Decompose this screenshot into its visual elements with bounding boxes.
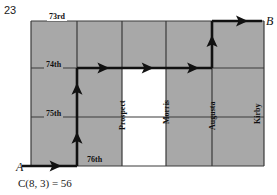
figure-caption: C(8, 3) = 56 [18,177,72,189]
street-grid-diagram [0,0,277,195]
street-label-73rd: 73rd [47,12,67,21]
node-label-end: B [266,14,273,29]
street-label-75th: 75th [44,109,63,118]
node-label-start: A [16,160,23,175]
street-label-augusta: Augusta [208,102,217,130]
combinatorics-grid-figure: 23 73rd74th75th76th ProspectMorrisAugust… [0,0,277,195]
street-label-74th: 74th [44,60,63,69]
street-label-prospect: Prospect [118,100,127,130]
street-label-kirby: Kirby [253,104,262,124]
caption-text: C(8, 3) = 56 [18,177,72,189]
street-label-76th: 76th [85,155,104,164]
grid-blocks [31,21,264,166]
street-label-morris: Morris [162,100,171,124]
